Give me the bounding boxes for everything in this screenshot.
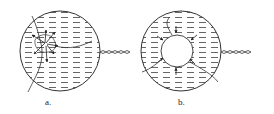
figure-b: [141, 11, 251, 91]
figure-b-label: b.: [178, 97, 185, 107]
diagram-canvas: [0, 0, 274, 114]
figure-a-label: a.: [45, 97, 51, 107]
figure-a: [20, 11, 130, 92]
